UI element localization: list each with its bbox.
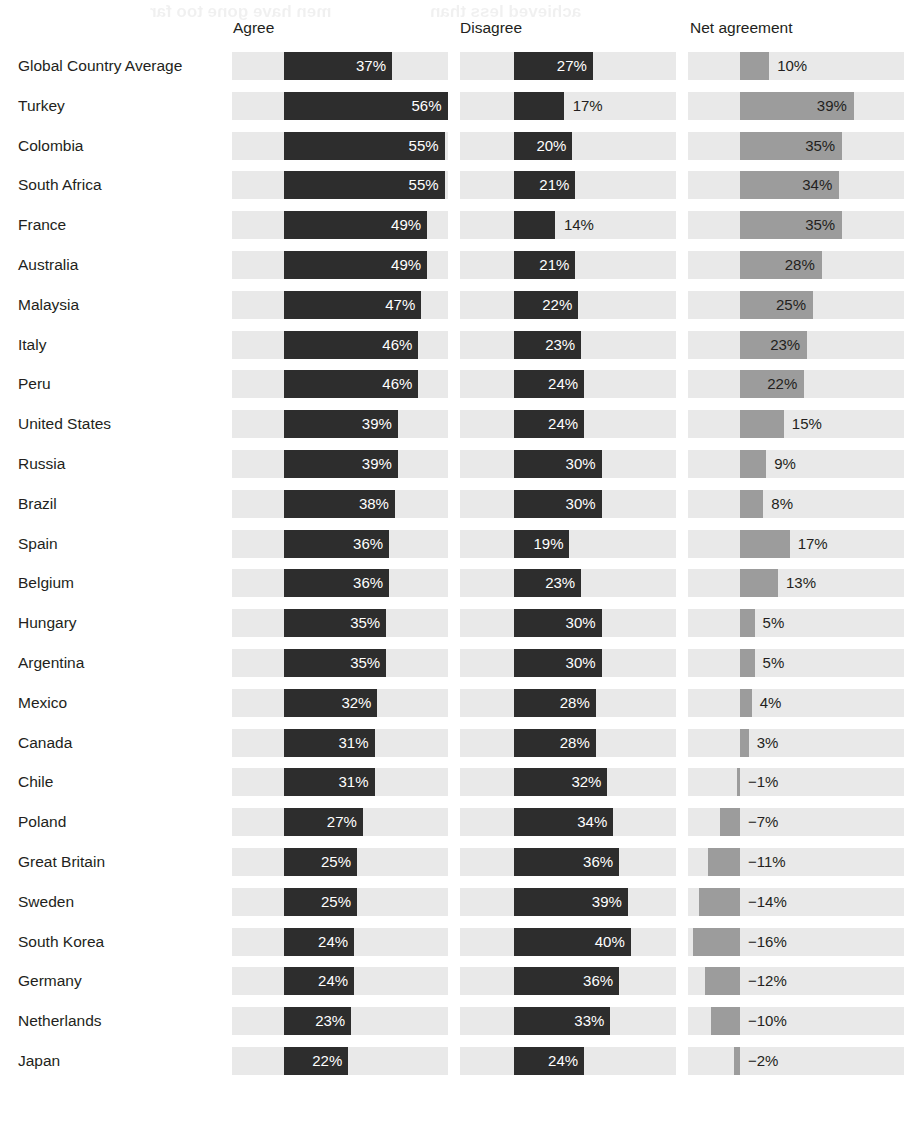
bar-zone-net-agreement: 9%: [688, 450, 904, 478]
row-label-country: Colombia: [18, 126, 83, 166]
row-label-country: Argentina: [18, 643, 84, 683]
bar-zone-disagree: 28%: [460, 729, 676, 757]
bar-zone-agree: 22%: [232, 1047, 448, 1075]
bar-value-net-agreement: 25%: [776, 291, 806, 319]
bar-value-agree: 35%: [350, 609, 380, 637]
chart-row: Brazil38%30%8%: [0, 484, 913, 524]
row-label-country: Turkey: [18, 86, 65, 126]
chart-row: Chile31%32%−1%: [0, 762, 913, 802]
bar-zone-net-agreement: −12%: [688, 967, 904, 995]
bar-value-disagree: 30%: [566, 609, 596, 637]
bar-value-net-agreement: 4%: [760, 689, 782, 717]
bar-net-agreement: [740, 729, 749, 757]
chart-row: Mexico32%28%4%: [0, 683, 913, 723]
bar-net-agreement: [737, 768, 740, 796]
bar-zone-net-agreement: −1%: [688, 768, 904, 796]
bar-value-disagree: 30%: [566, 450, 596, 478]
bar-value-agree: 46%: [382, 370, 412, 398]
row-label-country: Russia: [18, 444, 65, 484]
bar-zone-net-agreement: −16%: [688, 928, 904, 956]
bar-zone-disagree: 23%: [460, 331, 676, 359]
chart-row: Turkey56%17%39%: [0, 86, 913, 126]
bar-zone-disagree: 30%: [460, 609, 676, 637]
row-label-country: Italy: [18, 325, 46, 365]
bar-value-agree: 49%: [391, 251, 421, 279]
bar-net-agreement: [693, 928, 740, 956]
bar-zone-disagree: 21%: [460, 171, 676, 199]
bar-zone-disagree: 30%: [460, 649, 676, 677]
bar-zone-agree: 49%: [232, 251, 448, 279]
bar-value-disagree: 17%: [573, 92, 603, 120]
bar-zone-disagree: 24%: [460, 370, 676, 398]
chart-row: South Korea24%40%−16%: [0, 922, 913, 962]
bar-net-agreement: [740, 689, 752, 717]
bar-value-agree: 55%: [409, 132, 439, 160]
chart-row: France49%14%35%: [0, 205, 913, 245]
bar-zone-disagree: 19%: [460, 530, 676, 558]
bar-disagree: [514, 92, 564, 120]
bar-zone-disagree: 14%: [460, 211, 676, 239]
bar-value-agree: 32%: [341, 689, 371, 717]
bar-value-net-agreement: −12%: [748, 967, 787, 995]
bar-value-agree: 39%: [362, 450, 392, 478]
bar-zone-net-agreement: −10%: [688, 1007, 904, 1035]
bar-zone-disagree: 21%: [460, 251, 676, 279]
bar-value-agree: 49%: [391, 211, 421, 239]
bar-zone-net-agreement: 3%: [688, 729, 904, 757]
bar-zone-disagree: 20%: [460, 132, 676, 160]
column-header-disagree: Disagree: [460, 18, 522, 38]
chart-row: Poland27%34%−7%: [0, 802, 913, 842]
bar-zone-net-agreement: −2%: [688, 1047, 904, 1075]
bar-value-agree: 38%: [359, 490, 389, 518]
bar-value-net-agreement: −14%: [748, 888, 787, 916]
bar-zone-disagree: 36%: [460, 967, 676, 995]
bar-zone-agree: 55%: [232, 171, 448, 199]
chart-row: Spain36%19%17%: [0, 524, 913, 564]
bar-zone-disagree: 30%: [460, 490, 676, 518]
bar-net-agreement: [740, 649, 755, 677]
bar-zone-agree: 23%: [232, 1007, 448, 1035]
bar-value-agree: 24%: [318, 928, 348, 956]
bar-zone-agree: 46%: [232, 331, 448, 359]
bar-zone-disagree: 24%: [460, 1047, 676, 1075]
bar-value-disagree: 40%: [595, 928, 625, 956]
bar-zone-agree: 35%: [232, 649, 448, 677]
bar-zone-agree: 39%: [232, 410, 448, 438]
bar-value-agree: 25%: [321, 848, 351, 876]
bar-value-agree: 47%: [385, 291, 415, 319]
row-label-country: Poland: [18, 802, 66, 842]
bar-value-agree: 56%: [412, 92, 442, 120]
bar-zone-agree: 31%: [232, 729, 448, 757]
chart-row: South Africa55%21%34%: [0, 165, 913, 205]
row-label-country: Spain: [18, 524, 58, 564]
bar-zone-net-agreement: 25%: [688, 291, 904, 319]
row-label-country: Sweden: [18, 882, 74, 922]
bar-zone-agree: 25%: [232, 888, 448, 916]
bar-value-net-agreement: 39%: [817, 92, 847, 120]
bar-value-agree: 55%: [409, 171, 439, 199]
bar-zone-agree: 24%: [232, 928, 448, 956]
bar-value-agree: 25%: [321, 888, 351, 916]
bar-net-agreement: [740, 450, 766, 478]
row-label-country: United States: [18, 404, 111, 444]
bar-zone-agree: 37%: [232, 52, 448, 80]
bar-zone-disagree: 36%: [460, 848, 676, 876]
bar-value-net-agreement: 23%: [770, 331, 800, 359]
bar-value-disagree: 28%: [560, 689, 590, 717]
row-label-country: Global Country Average: [18, 46, 182, 86]
bar-value-disagree: 24%: [548, 370, 578, 398]
row-label-country: Malaysia: [18, 285, 79, 325]
bar-zone-disagree: 27%: [460, 52, 676, 80]
bar-zone-agree: 36%: [232, 569, 448, 597]
bar-value-disagree: 30%: [566, 649, 596, 677]
bar-zone-disagree: 28%: [460, 689, 676, 717]
bar-net-agreement: [734, 1047, 740, 1075]
bar-zone-net-agreement: 35%: [688, 211, 904, 239]
chart-row: Canada31%28%3%: [0, 723, 913, 763]
bar-zone-net-agreement: 23%: [688, 331, 904, 359]
chart-row: United States39%24%15%: [0, 404, 913, 444]
chart-row: Colombia55%20%35%: [0, 126, 913, 166]
bar-net-agreement: [720, 808, 740, 836]
bar-value-net-agreement: 3%: [757, 729, 779, 757]
chart-row: Germany24%36%−12%: [0, 961, 913, 1001]
